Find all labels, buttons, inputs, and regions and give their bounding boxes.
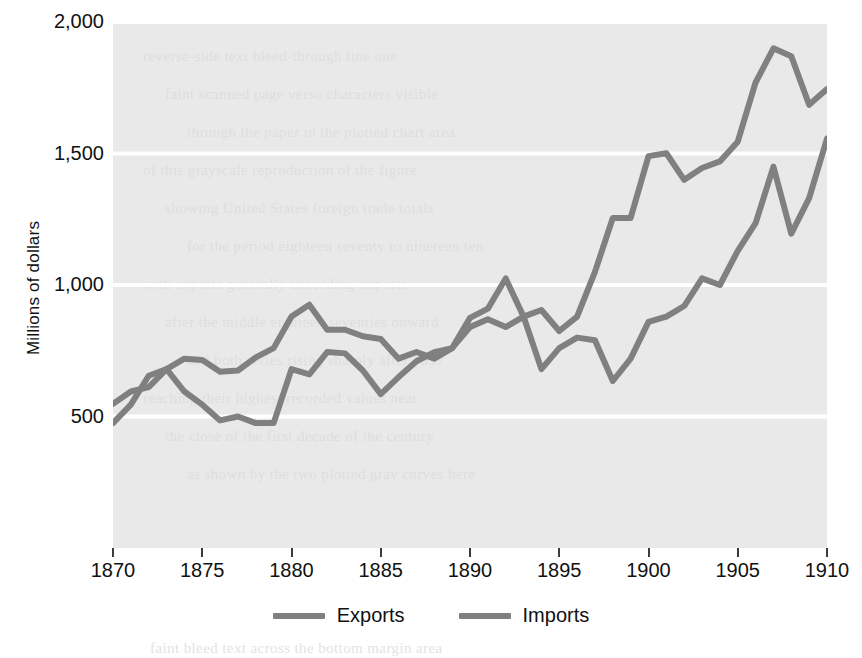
x-axis-tick-labels: 187018751880188518901895190019051910 xyxy=(0,548,862,588)
plot-area: reverse-side text bleed-through line one… xyxy=(113,22,827,548)
x-tick-mark xyxy=(826,548,828,557)
legend-line-swatch xyxy=(459,613,511,619)
x-tick-label: 1895 xyxy=(514,559,604,582)
legend-label: Exports xyxy=(337,604,405,627)
x-tick-label: 1905 xyxy=(693,559,783,582)
y-tick-label: 1,500 xyxy=(30,143,104,163)
legend-label: Imports xyxy=(523,604,590,627)
legend-item-imports[interactable]: Imports xyxy=(459,604,590,627)
y-tick-label: 500 xyxy=(30,406,104,426)
x-tick-label: 1885 xyxy=(336,559,426,582)
x-tick-mark xyxy=(558,548,560,557)
x-tick-label: 1880 xyxy=(247,559,337,582)
x-tick-mark xyxy=(469,548,471,557)
x-tick-mark xyxy=(291,548,293,557)
x-tick-mark xyxy=(737,548,739,557)
x-tick-mark xyxy=(201,548,203,557)
x-tick-label: 1870 xyxy=(68,559,158,582)
legend-line-swatch xyxy=(273,613,325,619)
legend-item-exports[interactable]: Exports xyxy=(273,604,405,627)
y-tick-label: 2,000 xyxy=(30,11,104,31)
chart-legend: ExportsImports xyxy=(0,604,862,627)
y-tick-label: 1,000 xyxy=(30,274,104,294)
x-tick-label: 1890 xyxy=(425,559,515,582)
series-line-exports xyxy=(113,48,827,404)
x-tick-mark xyxy=(380,548,382,557)
chart-figure: Millions of dollars 5001,0001,5002,000 r… xyxy=(0,0,862,658)
x-tick-label: 1910 xyxy=(782,559,862,582)
x-tick-mark xyxy=(648,548,650,557)
x-tick-label: 1900 xyxy=(604,559,694,582)
series-lines xyxy=(113,22,827,548)
x-tick-label: 1875 xyxy=(157,559,247,582)
bleed-text-line: faint bleed text across the bottom margi… xyxy=(150,640,443,657)
page-bleed-bottom: faint bleed text across the bottom margi… xyxy=(0,640,862,658)
series-line-imports xyxy=(113,139,827,424)
x-tick-mark xyxy=(112,548,114,557)
